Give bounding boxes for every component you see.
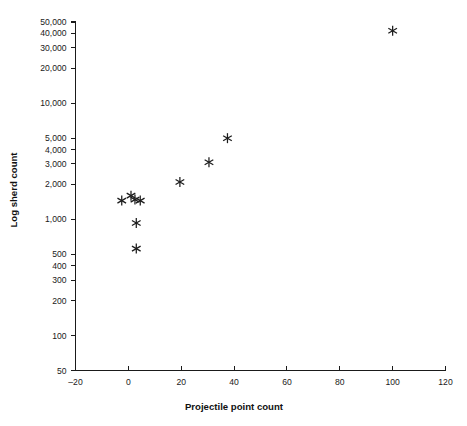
y-tick-label: 50	[57, 366, 67, 376]
y-tick-label: 5,000	[45, 133, 67, 143]
x-tick-label: 120	[438, 377, 453, 387]
x-tick-label: 100	[385, 377, 400, 387]
chart-canvas: 501002003004005001,0002,0003,0004,0005,0…	[0, 0, 467, 426]
x-tick-label: 20	[176, 377, 186, 387]
y-tick-label: 40,000	[40, 28, 67, 38]
y-tick-label: 50,000	[40, 17, 67, 27]
y-tick-label: 2,000	[45, 179, 67, 189]
y-tick-label: 3,000	[45, 159, 67, 169]
data-point-marker	[205, 157, 214, 167]
y-tick-label: 200	[52, 296, 67, 306]
x-tick-label: 0	[126, 377, 131, 387]
y-tick-label: 10,000	[40, 98, 67, 108]
data-point-marker	[223, 133, 232, 143]
x-tick-label: 80	[335, 377, 345, 387]
data-point-marker	[117, 196, 126, 206]
y-tick-label: 100	[52, 331, 67, 341]
data-point-marker	[176, 177, 185, 187]
x-tick-label: 40	[229, 377, 239, 387]
x-axis-title: Projectile point count	[185, 401, 284, 412]
x-tick-label: –20	[68, 377, 83, 387]
y-tick-label: 500	[52, 249, 67, 259]
x-tick-label: 60	[282, 377, 292, 387]
y-axis-ticks: 501002003004005001,0002,0003,0004,0005,0…	[40, 17, 75, 376]
scatter-chart: 501002003004005001,0002,0003,0004,0005,0…	[0, 0, 467, 426]
y-tick-label: 400	[52, 261, 67, 271]
y-tick-label: 4,000	[45, 145, 67, 155]
data-points	[117, 26, 397, 254]
y-tick-label: 30,000	[40, 43, 67, 53]
data-point-marker	[132, 218, 141, 228]
y-tick-label: 20,000	[40, 63, 67, 73]
y-tick-label: 1,000	[45, 214, 67, 224]
x-axis-ticks: –20020406080100120	[68, 366, 453, 387]
data-point-marker	[388, 26, 397, 36]
data-point-marker	[132, 244, 141, 254]
y-axis-title: Log sherd count	[8, 152, 19, 228]
y-tick-label: 300	[52, 275, 67, 285]
